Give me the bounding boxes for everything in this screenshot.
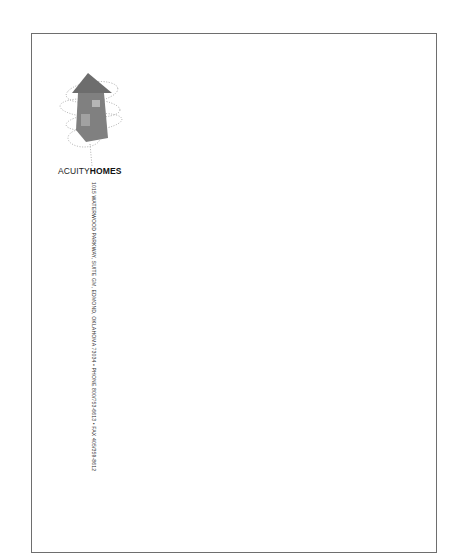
house-arrow-logo-icon <box>56 70 126 170</box>
company-address-vertical: 1015 WATERWOOD PARKWAY, SUITE GM, EDMOND… <box>91 182 96 471</box>
brand-name-bold: HOMES <box>90 166 122 176</box>
brand-wordmark: ACUITYHOMES <box>58 166 121 176</box>
brand-name-light: ACUITY <box>58 166 90 176</box>
